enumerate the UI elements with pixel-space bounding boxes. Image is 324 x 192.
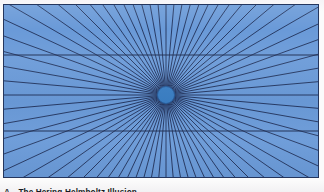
figure-caption: A The Hering-Helmholtz Illusion: [4, 181, 304, 192]
center-disc: [158, 87, 175, 104]
center-disc-shape: [158, 87, 175, 104]
illusion-diagram: [4, 5, 318, 177]
illusion-panel: [3, 4, 319, 178]
figure-root: A The Hering-Helmholtz Illusion: [0, 0, 324, 192]
caption-panel-label: A: [4, 188, 10, 192]
caption-title-text: The Hering-Helmholtz Illusion: [18, 188, 136, 192]
